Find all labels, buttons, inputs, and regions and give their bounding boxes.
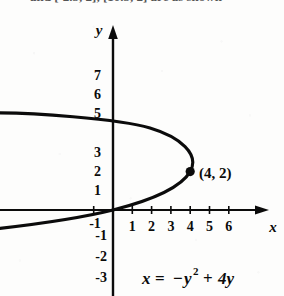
y-axis-arrowhead-icon — [108, 25, 118, 39]
x-axis-label: x — [268, 219, 277, 235]
y-axis-label: y — [94, 22, 103, 38]
y-axis — [108, 25, 118, 296]
y-tick-label-7: 7 — [94, 68, 101, 83]
equation-minus-sign: − — [173, 269, 183, 288]
x-tick-label-4: 4 — [187, 219, 194, 234]
equation-variable-y: y — [182, 269, 192, 288]
y-tick-label-6: 6 — [94, 87, 101, 102]
x-tick-label-3: 3 — [167, 219, 174, 234]
graph-canvas: y x 1 2 3 4 5 6 -1 7 6 5 3 2 1 -1 -2 -3 — [0, 0, 284, 296]
y-tick-label-neg-3: -3 — [95, 270, 107, 285]
vertex-point-label: (4, 2) — [199, 165, 232, 182]
vertex-point-marker — [186, 167, 195, 176]
y-tick-label-neg-2: -2 — [95, 249, 107, 264]
equation-equals: = — [155, 269, 165, 288]
x-tick-label-2: 2 — [148, 219, 155, 234]
equation-label: x = − y 2 + 4y — [141, 265, 235, 288]
x-tick-label-1: 1 — [129, 219, 136, 234]
y-tick-label-2: 2 — [94, 164, 101, 179]
y-tick-label-neg-1: -1 — [95, 228, 107, 243]
equation-term-4y: 4y — [217, 269, 235, 288]
x-tick-label-5: 5 — [206, 219, 213, 234]
x-tick-label-6: 6 — [225, 219, 232, 234]
equation-lhs: x — [141, 269, 151, 288]
equation-plus-sign: + — [203, 269, 213, 288]
x-axis-arrowhead-icon — [255, 205, 269, 214]
y-tick-label-3: 3 — [94, 145, 101, 160]
parabola-figure: and [-2.5, 2], [10.5, 2] are as shown y … — [0, 0, 284, 296]
y-tick-label-1: 1 — [94, 183, 101, 198]
equation-exponent-2: 2 — [193, 265, 199, 277]
